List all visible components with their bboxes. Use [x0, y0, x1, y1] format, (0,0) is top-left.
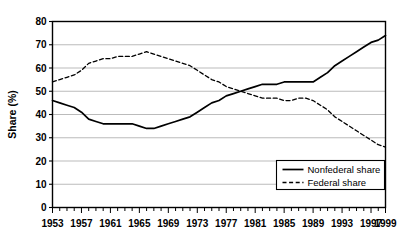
y-tick-label: 70: [35, 39, 47, 50]
x-tick-label: 1965: [128, 218, 151, 229]
x-tick-label: 1969: [157, 218, 180, 229]
y-tick-label: 0: [41, 202, 47, 213]
y-tick-label: 80: [35, 16, 47, 27]
x-tick-label: 1981: [244, 218, 267, 229]
x-tick-label: 1953: [41, 218, 64, 229]
x-tick-label: 1999: [374, 218, 397, 229]
y-tick-label: 20: [35, 156, 47, 167]
y-tick-label: 40: [35, 109, 47, 120]
legend-label-2: Federal share: [308, 177, 367, 188]
x-tick-label: 1961: [99, 218, 122, 229]
y-tick-label: 10: [35, 179, 47, 190]
x-axis: [53, 208, 386, 214]
y-tick-label: 50: [35, 86, 47, 97]
x-tick-label: 1977: [215, 218, 238, 229]
x-tick-label: 1993: [331, 218, 354, 229]
legend-label-1: Nonfederal share: [308, 164, 381, 175]
x-tick-label: 1957: [70, 218, 93, 229]
x-tick-label: 1989: [302, 218, 325, 229]
x-tick-label: 1973: [186, 218, 209, 229]
y-tick-label: 60: [35, 63, 47, 74]
y-tick-label: 30: [35, 132, 47, 143]
x-tick-label: 1985: [273, 218, 296, 229]
chart-svg: 01020304050607080Share (%)19531957196119…: [0, 0, 412, 236]
y-axis-title: Share (%): [6, 90, 18, 138]
chart-figure: 01020304050607080Share (%)19531957196119…: [0, 0, 412, 236]
